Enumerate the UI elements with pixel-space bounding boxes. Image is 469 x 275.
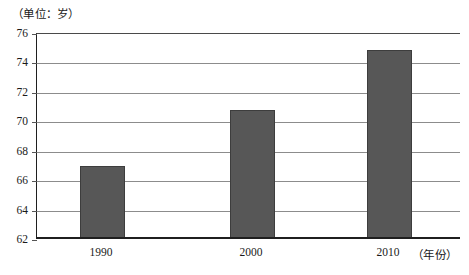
x-axis-line xyxy=(36,237,460,239)
y-axis-tick-label: 64 xyxy=(2,204,28,216)
chart-screenshot: （单位：岁） 7674727068666462 199020002010 （年份… xyxy=(0,0,469,275)
y-axis-tick xyxy=(32,181,37,182)
y-axis-tick-label: 68 xyxy=(2,145,28,157)
y-axis-tick-labels: 7674727068666462 xyxy=(0,33,28,239)
y-axis-tick-label: 62 xyxy=(2,233,28,245)
bar xyxy=(367,50,412,238)
y-axis-tick xyxy=(32,152,37,153)
y-axis-tick-label: 72 xyxy=(2,86,28,98)
plot-area xyxy=(36,33,460,239)
y-axis-tick xyxy=(32,211,37,212)
x-axis-tick-label: 2010 xyxy=(377,246,400,258)
y-axis-tick xyxy=(32,34,37,35)
bar xyxy=(230,110,275,238)
y-axis-tick xyxy=(32,63,37,64)
bar xyxy=(80,166,125,238)
x-axis-tick-label: 1990 xyxy=(90,246,113,258)
y-axis-tick-label: 70 xyxy=(2,115,28,127)
y-axis-tick-label: 76 xyxy=(2,27,28,39)
x-axis-tick-label: 2000 xyxy=(240,246,263,258)
y-axis-tick-label: 66 xyxy=(2,174,28,186)
x-axis-title: （年份） xyxy=(412,246,457,262)
y-axis-tick xyxy=(32,93,37,94)
y-axis-tick-label: 74 xyxy=(2,56,28,68)
unit-caption: （单位：岁） xyxy=(12,5,80,21)
y-axis-tick xyxy=(32,240,37,241)
y-axis-tick xyxy=(32,122,37,123)
